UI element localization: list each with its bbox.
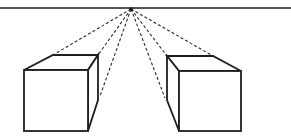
projection-line xyxy=(131,9,165,98)
projection-line xyxy=(53,9,131,55)
projection-line xyxy=(98,9,131,55)
left-cube xyxy=(24,55,98,131)
vanishing-point xyxy=(129,7,133,11)
right-cube xyxy=(167,56,241,131)
cubes xyxy=(24,55,241,131)
cube-side-face xyxy=(88,55,98,131)
cube-front-face xyxy=(179,71,241,131)
projection-line xyxy=(131,9,213,56)
projection-line xyxy=(131,9,167,56)
projection-line xyxy=(100,9,131,96)
perspective-diagram xyxy=(0,0,291,138)
cube-top-face xyxy=(24,55,98,70)
cube-front-face xyxy=(24,70,88,131)
